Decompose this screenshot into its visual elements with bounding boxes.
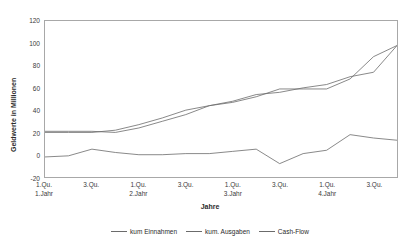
y-tick-label: 20 [6,129,40,136]
y-axis-ticks: 120100806040200-20 [0,0,40,249]
y-tick-label: 120 [6,17,40,24]
legend-line-icon [186,231,202,232]
legend-label: kum Einnahmen [130,228,177,235]
plot-svg [45,21,397,177]
x-tick-label: 1.Qu.1.Jahr [35,181,53,198]
legend-label: kum. Ausgaben [205,228,250,235]
chart-title [0,0,420,6]
x-tick-label: 3.Qu. [83,181,99,190]
series-line [45,46,397,133]
y-tick-label: 80 [6,62,40,69]
y-tick-label: 100 [6,39,40,46]
y-tick-label: 0 [6,152,40,159]
legend-item[interactable]: kum. Ausgaben [186,228,250,235]
x-tick-label: 1.Qu.4.Jahr [318,181,336,198]
x-tick-label: 1.Qu.2.Jahr [129,181,147,198]
legend-item[interactable]: Cash-Flow [259,228,309,235]
legend-label: Cash-Flow [278,228,309,235]
legend-item[interactable]: kum Einnahmen [111,228,177,235]
x-tick-label: 3.Qu. [178,181,194,190]
y-tick-label: 40 [6,107,40,114]
x-axis-label: Jahre [0,203,420,210]
chart-legend: kum Einnahmenkum. AusgabenCash-Flow [0,228,420,235]
x-tick-label: 3.Qu. [366,181,382,190]
x-tick-label: 3.Qu. [272,181,288,190]
series-line [45,135,397,164]
legend-line-icon [259,231,275,232]
x-tick-label: 1.Qu.3.Jahr [224,181,242,198]
legend-line-icon [111,231,127,232]
plot-area [44,20,398,178]
series-line [45,46,397,133]
chart-container: Geldwerte in Millionen 120100806040200-2… [0,0,420,249]
y-tick-label: 60 [6,84,40,91]
